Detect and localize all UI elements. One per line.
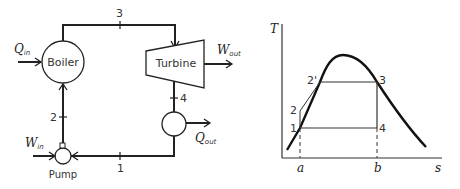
state-1-label: 1 xyxy=(117,162,124,175)
x-axis-label: s xyxy=(435,161,441,175)
state-2-label: 2 xyxy=(50,111,57,124)
pipe-condenser-to-pump xyxy=(71,136,174,156)
pipe-boiler-to-turbine xyxy=(63,25,175,47)
w-in-label: Win xyxy=(25,136,44,151)
ts-diagram: T s a b 1 2 2' 3 4 xyxy=(270,22,442,175)
ts-point-4-label: 4 xyxy=(379,122,386,135)
pump-label: Pump xyxy=(49,169,77,180)
ts-point-3-label: 3 xyxy=(379,74,386,87)
condenser xyxy=(162,112,186,136)
pump xyxy=(55,148,71,164)
ts-point-2-label: 2 xyxy=(290,104,297,117)
saturation-dome-curve xyxy=(287,55,426,150)
pump-outlet xyxy=(60,143,65,148)
rankine-cycle-figure: 3 Boiler Qin Turbine Wout 4 Qout 1 xyxy=(0,0,460,189)
turbine-label: Turbine xyxy=(155,57,197,70)
ts-point-2prime-label: 2' xyxy=(307,74,317,87)
cycle-schematic: 3 Boiler Qin Turbine Wout 4 Qout 1 xyxy=(14,7,241,180)
y-axis-label: T xyxy=(270,22,279,36)
q-in-label: Qin xyxy=(14,42,30,57)
q-out-label: Qout xyxy=(195,131,217,146)
x-marker-a: a xyxy=(297,161,304,175)
ts-point-1-label: 1 xyxy=(290,122,297,135)
x-marker-b: b xyxy=(374,161,382,175)
boiler-label: Boiler xyxy=(47,56,79,69)
w-out-label: Wout xyxy=(217,43,241,58)
state-4-label: 4 xyxy=(180,92,187,105)
state-3-label: 3 xyxy=(116,7,123,20)
